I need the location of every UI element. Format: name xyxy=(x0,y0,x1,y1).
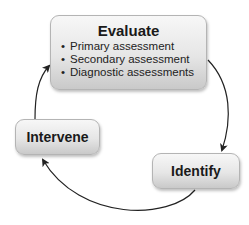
evaluate-node: Evaluate •Primary assessment •Secondary … xyxy=(50,15,207,90)
bullet-icon: • xyxy=(61,66,70,79)
list-item-text: Diagnostic assessments xyxy=(70,66,194,78)
intervene-node: Intervene xyxy=(15,119,100,155)
arrow-intervene-to-evaluate xyxy=(35,66,49,119)
arrow-evaluate-to-identify xyxy=(208,60,228,150)
identify-node: Identify xyxy=(152,153,240,189)
list-item: •Primary assessment xyxy=(61,40,206,53)
evaluate-title: Evaluate xyxy=(51,23,206,39)
list-item: •Diagnostic assessments xyxy=(61,66,206,79)
intervene-title: Intervene xyxy=(16,120,99,154)
identify-title: Identify xyxy=(153,154,239,188)
bullet-icon: • xyxy=(61,40,70,53)
list-item-text: Primary assessment xyxy=(70,40,174,52)
list-item: •Secondary assessment xyxy=(61,53,206,66)
evaluate-list: •Primary assessment •Secondary assessmen… xyxy=(51,40,206,79)
bullet-icon: • xyxy=(61,53,70,66)
list-item-text: Secondary assessment xyxy=(70,53,190,65)
